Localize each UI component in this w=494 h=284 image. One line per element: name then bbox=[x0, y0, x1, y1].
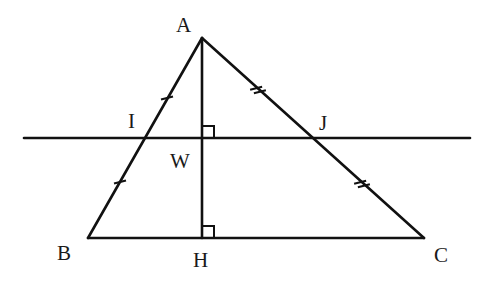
right-angle-marker-W bbox=[202, 126, 214, 138]
right-angle-markers bbox=[202, 126, 214, 238]
geometry-diagram: A B C H I J W bbox=[0, 0, 494, 284]
point-label-J: J bbox=[319, 111, 327, 135]
point-label-A: A bbox=[176, 13, 192, 37]
point-label-I: I bbox=[128, 109, 135, 133]
point-label-B: B bbox=[57, 241, 71, 265]
point-label-W: W bbox=[170, 149, 190, 173]
right-angle-marker-H bbox=[202, 226, 214, 238]
point-label-C: C bbox=[434, 243, 448, 267]
point-label-H: H bbox=[193, 248, 208, 272]
